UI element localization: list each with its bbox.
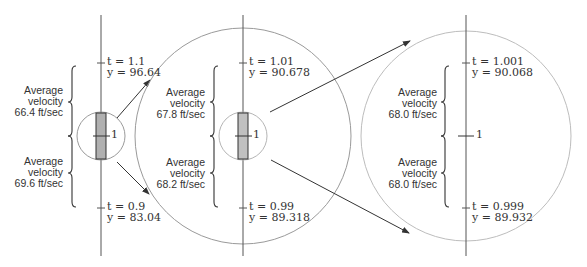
- brace-lower: [210, 136, 218, 207]
- center-label: 1: [476, 128, 483, 141]
- brace-lower: [441, 136, 449, 207]
- arrow-down: [117, 162, 149, 194]
- arrow-up: [117, 80, 150, 118]
- velocity-value: 67.8 ft/sec: [157, 109, 205, 120]
- diagram-graphics: [0, 0, 587, 267]
- zoom-diagram: t = 1.1 y = 96.64 t = 0.9 y = 83.04 Aver…: [0, 0, 587, 267]
- velocity-value: 68.2 ft/sec: [157, 179, 205, 190]
- y-label-bottom: y = 89.932: [472, 212, 533, 223]
- velocity-label-upper: Average velocity 68.0 ft/sec: [389, 87, 437, 120]
- velocity-value: 69.6 ft/sec: [15, 178, 63, 189]
- velocity-value: 66.4 ft/sec: [15, 107, 63, 118]
- brace-upper: [441, 66, 449, 136]
- brace-upper: [68, 66, 76, 136]
- center-label: 1: [111, 128, 118, 141]
- center-label: 1: [253, 128, 260, 141]
- y-label-bottom: y = 83.04: [107, 212, 161, 223]
- y-label-top: y = 90.678: [249, 67, 310, 78]
- velocity-label-upper: Average velocity 66.4 ft/sec: [15, 85, 63, 118]
- brace-lower: [68, 136, 76, 207]
- velocity-value: 68.0 ft/sec: [389, 179, 437, 190]
- y-label-bottom: y = 89.318: [249, 212, 310, 223]
- y-label-top: y = 96.64: [107, 67, 161, 78]
- y-label-top: y = 90.068: [472, 67, 533, 78]
- velocity-value: 68.0 ft/sec: [389, 109, 437, 120]
- velocity-label-lower: Average velocity 68.2 ft/sec: [157, 157, 205, 190]
- brace-upper: [210, 66, 218, 136]
- velocity-label-lower: Average velocity 68.0 ft/sec: [389, 157, 437, 190]
- velocity-label-lower: Average velocity 69.6 ft/sec: [15, 156, 63, 189]
- velocity-label-upper: Average velocity 67.8 ft/sec: [157, 87, 205, 120]
- panel-3: [361, 15, 571, 256]
